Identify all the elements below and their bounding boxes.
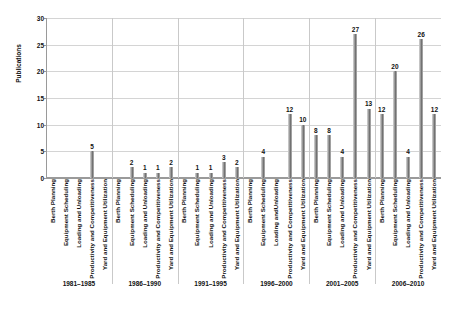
bar[interactable] (406, 157, 410, 178)
bar-slot: 4 (401, 18, 414, 178)
category-label: Yard and Equipment Utilization (431, 179, 437, 270)
bar-slot: 12 (428, 18, 441, 178)
bar-group: 8842713 (309, 18, 375, 178)
bar[interactable] (340, 157, 344, 178)
category-label: Equipment Scheduling (63, 179, 69, 246)
category-label: Productivity and Competitiveness (418, 179, 424, 279)
period-label: 1996–2000 (243, 280, 309, 294)
bar[interactable] (209, 173, 213, 178)
category-slot: Loading and Unloading (336, 179, 349, 277)
bar[interactable] (301, 125, 305, 178)
category-slot: Loading and Unloading (401, 179, 414, 277)
y-axis-title: Publications (15, 29, 22, 99)
bar-value-label: 8 (314, 128, 318, 135)
category-label: Loading and Unloading (207, 179, 213, 248)
bar[interactable] (314, 135, 318, 178)
category-label: Equipment Scheduling (128, 179, 134, 246)
bar[interactable] (288, 114, 292, 178)
bar-slot (72, 18, 85, 178)
bar-slot: 12 (283, 18, 296, 178)
bar-slot: 26 (415, 18, 428, 178)
bar-value-label: 1 (143, 165, 147, 172)
category-slot: Equipment Scheduling (388, 179, 401, 277)
bar-slot: 1 (191, 18, 204, 178)
bar-value-label: 4 (406, 149, 410, 156)
category-label: Berth Planning (181, 179, 187, 223)
period-label: 1991–1995 (178, 280, 244, 294)
bar-slot (243, 18, 256, 178)
category-label: Yard and Equipment Utilization (102, 179, 108, 270)
bar-slot: 8 (322, 18, 335, 178)
bar-value-label: 2 (169, 160, 173, 167)
bar[interactable] (195, 173, 199, 178)
bar[interactable] (222, 162, 226, 178)
bar[interactable] (380, 114, 384, 178)
category-label: Yard and Equipment Utilization (365, 179, 371, 270)
bar-value-label: 12 (286, 107, 293, 114)
bar-group: 2112 (112, 18, 178, 178)
category-group: Berth PlanningEquipment SchedulingLoadin… (243, 179, 309, 277)
category-slot: Yard and Equipment Utilization (362, 179, 375, 277)
bar-slot: 20 (388, 18, 401, 178)
category-label: Berth Planning (247, 179, 253, 223)
category-slot: Berth Planning (112, 179, 125, 277)
category-label: Berth Planning (115, 179, 121, 223)
bar[interactable] (235, 167, 239, 178)
bar-value-label: 10 (299, 117, 306, 124)
bar[interactable] (419, 39, 423, 178)
bar-slot: 10 (296, 18, 309, 178)
bar-slot: 2 (165, 18, 178, 178)
category-label: Loading andUnloading (273, 179, 279, 246)
category-slot: Berth Planning (243, 179, 256, 277)
bar-slot: 1 (138, 18, 151, 178)
bar-value-label: 4 (261, 149, 265, 156)
category-slot: Productivity and Competitiveness (217, 179, 230, 277)
bar[interactable] (143, 173, 147, 178)
bar[interactable] (169, 167, 173, 178)
category-label-row: Berth PlanningEquipment SchedulingLoadin… (46, 179, 441, 277)
bar-value-label: 1 (156, 165, 160, 172)
category-slot: Productivity and Competitiveness (415, 179, 428, 277)
category-slot: Equipment Scheduling (257, 179, 270, 277)
category-slot: Productivity and Competitiveness (151, 179, 164, 277)
bar-value-label: 12 (378, 107, 385, 114)
bar[interactable] (90, 151, 94, 178)
category-slot: Equipment Scheduling (59, 179, 72, 277)
category-slot: Loading and Unloading (138, 179, 151, 277)
bar-value-label: 27 (352, 27, 359, 34)
category-label: Equipment Scheduling (260, 179, 266, 246)
bar-slot (112, 18, 125, 178)
bar-slot: 4 (336, 18, 349, 178)
bar[interactable] (393, 71, 397, 178)
category-slot: Berth Planning (309, 179, 322, 277)
category-slot: Productivity and Competitiveness (349, 179, 362, 277)
category-slot: Yard and Equipment Utilization (165, 179, 178, 277)
bar-groups: 521121132412108842713122042612 (46, 18, 441, 178)
bar[interactable] (353, 34, 357, 178)
bar-slot (59, 18, 72, 178)
period-label: 1986–1990 (112, 280, 178, 294)
bar-slot: 1 (151, 18, 164, 178)
bar-group: 5 (46, 18, 112, 178)
bar-value-label: 26 (418, 32, 425, 39)
bar-slot (178, 18, 191, 178)
bar[interactable] (130, 167, 134, 178)
category-group: Berth PlanningEquipment SchedulingLoadin… (309, 179, 375, 277)
bar-value-label: 8 (327, 128, 331, 135)
bar[interactable] (261, 157, 265, 178)
category-slot: Productivity and Competitiveness (86, 179, 99, 277)
bar[interactable] (156, 173, 160, 178)
bar[interactable] (432, 114, 436, 178)
category-label: Productivity and Competitiveness (155, 179, 161, 279)
bar[interactable] (367, 109, 371, 178)
bar-value-label: 1 (209, 165, 213, 172)
bar-value-label: 13 (365, 101, 372, 108)
category-label: Equipment Scheduling (392, 179, 398, 246)
period-label-row: 1981–19851986–19901991–19951996–20002001… (46, 280, 441, 294)
category-slot: Loading and Unloading (72, 179, 85, 277)
category-label: Equipment Scheduling (326, 179, 332, 246)
bar-slot: 2 (230, 18, 243, 178)
y-tick-label-15: 15 (37, 95, 44, 102)
publications-bar-chart: Publications 051015202530 52112113241210… (0, 0, 449, 316)
bar[interactable] (327, 135, 331, 178)
